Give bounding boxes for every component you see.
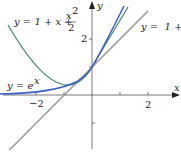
quadratic-label: y = 1 + x + x 2 2 [13,5,78,33]
quadratic-label-exponent: 2 [72,5,78,16]
exp-label: y = e x [6,75,40,91]
exp-label-text: y = e [6,80,33,91]
taylor-approximation-diagram: −2 2 2 x y y = 1 + x + x 2 2 y = 1 + x y… [0,0,181,153]
y-axis-label: y [96,0,103,11]
quadratic-label-denominator: 2 [68,22,74,33]
y-tick-label-2: 2 [81,33,87,44]
x-tick-label-2: 2 [145,99,151,110]
x-axis-label: x [174,82,180,93]
y-axis-arrow-icon [89,1,95,9]
line-label: y = 1 + x [140,21,181,32]
exp-label-exponent: x [34,75,40,86]
x-tick-label-neg2: −2 [29,98,44,109]
